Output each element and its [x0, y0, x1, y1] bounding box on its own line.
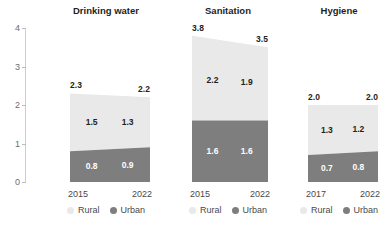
- chart-panel-hygiene: Hygiene2.02.01.31.20.70.820172022RuralUr…: [290, 0, 388, 228]
- chart-figure: 01234 Drinking water2.32.21.51.30.80.920…: [0, 0, 388, 228]
- legend-item-rural[interactable]: Rural: [67, 206, 100, 215]
- plot-area: [172, 28, 284, 182]
- urban-value-label: 1.6: [207, 147, 219, 156]
- legend-item-rural[interactable]: Rural: [189, 206, 222, 215]
- legend-item-urban[interactable]: Urban: [343, 206, 379, 215]
- y-axis-tick-mark: [22, 67, 26, 68]
- rural-value-label: 1.5: [86, 118, 98, 127]
- chart-panel-sanitation: Sanitation3.83.52.21.91.61.620152022Rura…: [172, 0, 284, 228]
- urban-value-label: 0.8: [352, 163, 364, 172]
- y-axis-tick-mark: [22, 144, 26, 145]
- panel-title: Hygiene: [290, 6, 388, 16]
- legend-label: Rural: [311, 206, 333, 215]
- y-axis-tick-label: 0: [0, 178, 20, 187]
- y-axis: 01234: [0, 0, 46, 228]
- legend: RuralUrban: [290, 206, 388, 215]
- urban-value-label: 0.8: [86, 162, 98, 171]
- total-value-label: 3.5: [256, 35, 268, 44]
- rural-value-label: 2.2: [207, 75, 219, 84]
- rural-value-label: 1.3: [122, 118, 134, 127]
- x-axis-tick-label: 2022: [132, 190, 152, 199]
- urban-value-label: 0.7: [321, 164, 333, 173]
- area-band-urban: [70, 147, 150, 182]
- panel-title: Sanitation: [172, 6, 284, 16]
- legend-swatch-rural-icon: [189, 207, 196, 214]
- rural-value-label: 1.2: [352, 124, 364, 133]
- legend: RuralUrban: [46, 206, 166, 215]
- y-axis-tick-mark: [22, 105, 26, 106]
- legend-swatch-urban-icon: [110, 207, 117, 214]
- rural-value-label: 1.3: [321, 125, 333, 134]
- urban-value-label: 1.6: [241, 147, 253, 156]
- x-axis-tick-label: 2022: [250, 190, 270, 199]
- chart-panel-drinking-water: Drinking water2.32.21.51.30.80.920152022…: [46, 0, 166, 228]
- urban-value-label: 0.9: [122, 161, 134, 170]
- total-value-label: 2.0: [366, 93, 378, 102]
- area-band-urban: [192, 120, 268, 182]
- legend-label: Urban: [121, 206, 146, 215]
- plot-area: [46, 28, 166, 182]
- rural-value-label: 1.9: [241, 78, 253, 87]
- x-axis-tick-label: 2022: [360, 190, 380, 199]
- legend-swatch-rural-icon: [67, 207, 74, 214]
- x-axis-tick-label: 2015: [68, 190, 88, 199]
- total-value-label: 3.8: [192, 23, 204, 32]
- area-band-rural: [70, 93, 150, 151]
- legend-label: Rural: [200, 206, 222, 215]
- legend-item-urban[interactable]: Urban: [110, 206, 146, 215]
- total-value-label: 2.3: [70, 81, 82, 90]
- legend-label: Urban: [354, 206, 379, 215]
- area-band-rural: [308, 105, 378, 155]
- x-axis-tick-label: 2015: [190, 190, 210, 199]
- area-band-urban: [308, 151, 378, 182]
- y-axis-tick-mark: [22, 28, 26, 29]
- legend-label: Rural: [78, 206, 100, 215]
- total-value-label: 2.2: [138, 85, 150, 94]
- y-axis-tick-label: 4: [0, 24, 20, 33]
- legend-label: Urban: [243, 206, 268, 215]
- x-axis-tick-label: 2017: [306, 190, 326, 199]
- area-band-rural: [192, 36, 268, 121]
- plot-area: [290, 28, 388, 182]
- total-value-label: 2.0: [308, 93, 320, 102]
- legend-item-rural[interactable]: Rural: [300, 206, 333, 215]
- y-axis-tick-label: 2: [0, 101, 20, 110]
- y-axis-tick-label: 3: [0, 62, 20, 71]
- legend-swatch-urban-icon: [232, 207, 239, 214]
- legend-swatch-urban-icon: [343, 207, 350, 214]
- y-axis-tick-mark: [22, 182, 26, 183]
- legend-item-urban[interactable]: Urban: [232, 206, 268, 215]
- legend: RuralUrban: [172, 206, 284, 215]
- panel-title: Drinking water: [46, 6, 166, 16]
- y-axis-tick-label: 1: [0, 139, 20, 148]
- legend-swatch-rural-icon: [300, 207, 307, 214]
